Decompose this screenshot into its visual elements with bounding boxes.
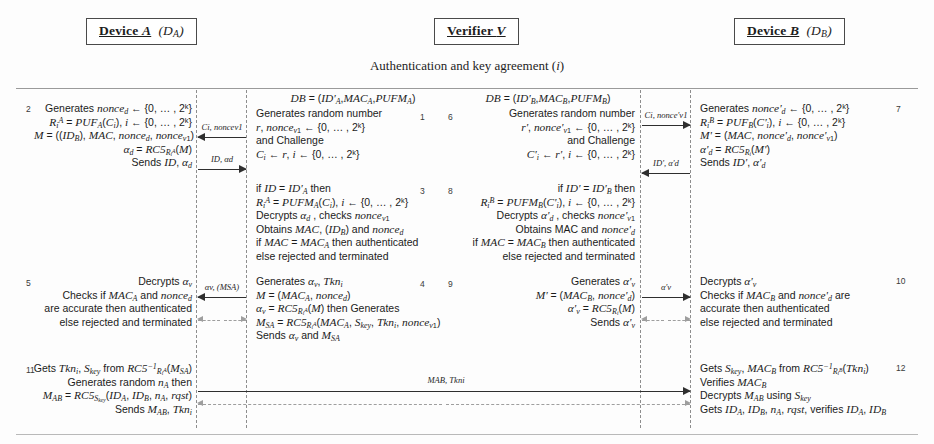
arrow-dotted-left-row3-b [642,316,664,325]
arrow-label-challenge-to-a: Ci, noncev1 [196,122,248,132]
party-label-device-b: Device B [747,23,799,38]
db-header-left: DB = (ID'A,MACA,PUFMA) [258,92,448,106]
lifeline-verifier-left [246,90,247,428]
arrow-label-challenge-to-b: Ci, nonce'v1 [640,110,692,120]
arrow-verifier-to-device-b-alpha [642,293,690,302]
db-header-right: DB = (ID'B,MACB,PUFMB) [448,92,648,106]
arrow-dotted-right-row3-b [668,316,690,325]
arrow-label-mab-tkn: MAB, Tkni [410,375,482,385]
block-verifier-step4: Generates αv, Tkni M = (MACA, nonced) αv… [256,275,436,343]
arrow-dotted-right-row4 [446,400,690,409]
arrow-label-id-to-verifier: ID, αd [196,154,248,164]
arrow-label-alpha-to-b: α'v [640,282,692,292]
arrow-device-a-to-verifier-id [198,165,246,174]
block-verifier-step8: if ID' = ID'B then RiB = PUFMB(C'i), i ←… [462,182,635,264]
arrow-device-b-to-verifier-id [642,169,690,178]
lifeline-verifier-right [640,90,641,428]
bottom-divider [16,434,918,435]
block-device-a-step11: Gets Tkni, Skey from RC5−1RiA(MSA) Gener… [26,362,192,416]
step-number-6: 6 [448,112,453,122]
step-number-9: 9 [448,279,453,289]
block-device-a-step5: Decrypts αv Checks if MACA and nonced ar… [26,275,192,329]
arrow-dotted-left-row3-a [198,316,220,325]
block-device-a-step2: Generates nonced ← {0, … , 2k} RiA = PUF… [34,102,192,170]
block-device-b-step10: Decrypts α'v Checks if MACB and nonce'd … [700,275,900,329]
step-number-8: 8 [448,186,453,196]
block-verifier-step1: Generates random number r, noncev1 ← {0,… [256,107,421,161]
party-label-verifier: Verifier V [447,23,506,38]
step-number-7: 7 [896,104,901,114]
party-symbol-device-b: (DB) [803,23,832,38]
party-box-verifier: Verifier V [434,18,519,45]
party-label-device-a: Device A [99,23,151,38]
block-verifier-step9: Generates α'v M' = (MACB, nonce'd) α'v =… [470,275,635,329]
party-box-device-a: Device A (DA) [86,18,197,45]
block-verifier-step3: if ID = ID'A then RiA = PUFMA(Ci), i ← {… [256,182,431,264]
arrow-label-id-to-verifier-b: ID', α'd [640,158,692,168]
step-number-2: 2 [26,104,31,114]
block-device-b-step7: Generates nonce'd ← {0, … , 2k} RiB = PU… [700,102,890,170]
arrow-verifier-to-device-a-challenge [198,133,246,142]
block-device-b-step12: Gets Skey, MACB from RC5−1RiB(Tkni) Veri… [700,362,915,416]
party-symbol-device-a: (DA) [155,23,184,38]
phase-title: Authentication and key agreement (i) [0,58,934,74]
protocol-sequence-diagram: Device A (DA) Verifier V Device B (DB) A… [0,0,934,444]
arrow-verifier-to-device-a-alpha [198,293,246,302]
block-verifier-step6: Generates random number r', nonce'v1 ← {… [470,107,635,161]
lifeline-device-b-left [690,90,691,428]
arrow-label-alpha-to-a: αv, (MSA) [194,282,250,292]
arrow-dotted-left-row4 [198,400,442,409]
top-divider [16,88,918,89]
arrow-device-a-to-device-b-mab [198,387,690,396]
arrow-dotted-right-row3-a [224,316,246,325]
party-box-device-b: Device B (DB) [734,18,845,45]
arrow-verifier-to-device-b-challenge [642,121,690,130]
